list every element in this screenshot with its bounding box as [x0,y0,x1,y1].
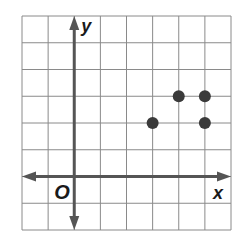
x-axis-arrow-left-icon [22,172,36,182]
x-axis-arrow-right-icon [217,172,231,182]
y-axis-arrow-down-icon [69,216,79,230]
y-axis-label: y [80,16,92,36]
data-point [147,117,159,129]
data-point [199,90,211,102]
data-point [173,90,185,102]
data-point [199,117,211,129]
origin-label: O [54,181,70,203]
coordinate-plane: x y O [0,0,239,245]
x-axis-label: x [212,183,224,203]
y-axis-arrow-up-icon [69,16,79,30]
